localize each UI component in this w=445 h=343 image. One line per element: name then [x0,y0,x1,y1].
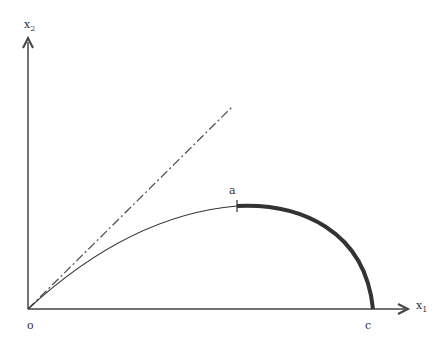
y-axis-label-sub: 2 [30,24,35,33]
dash-dot-line [28,106,233,309]
origin-label: o [27,319,34,332]
x-axis-label: x1 [416,299,427,312]
point-a-label: a [229,184,236,197]
diagram-canvas [0,0,445,343]
thin-curve-o-to-a [28,206,237,309]
point-c-label: c [365,319,371,332]
y-axis-label: x2 [24,18,35,31]
thick-curve-a-to-c [237,206,373,309]
x-axis-label-sub: 1 [422,305,427,314]
